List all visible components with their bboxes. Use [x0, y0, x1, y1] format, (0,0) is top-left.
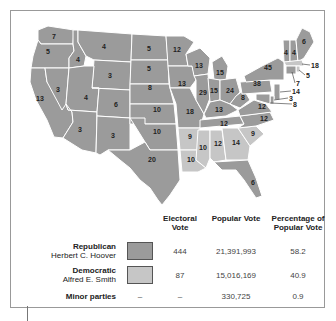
democratic-swatch [127, 266, 153, 284]
state-ev-label-me: 6 [302, 38, 306, 45]
state-ev-label-az: 3 [78, 126, 82, 133]
state-ev-label-ms: 10 [199, 144, 207, 151]
state-ev-label-nc: 12 [260, 115, 268, 122]
us-electoral-map: 7513344343635581010201213189101329151524… [0, 0, 336, 215]
minor-electoral-vote: – [158, 292, 202, 301]
state-ct [286, 66, 296, 74]
state-ev-label-wa: 7 [52, 33, 56, 40]
democratic-percentage: 40.9 [268, 271, 328, 280]
header-electoral-vote: Electoral Vote [158, 214, 202, 232]
state-ev-label-pa: 38 [253, 80, 261, 87]
state-ev-label-nj: 14 [292, 88, 300, 95]
minor-popular-vote: 330,725 [210, 292, 262, 301]
minor-swatch-placeholder: – [127, 292, 153, 301]
header-percentage-popular-vote: Percentage of Popular Vote [268, 214, 328, 232]
state-ev-label-ri: 5 [306, 72, 310, 79]
state-ev-label-nh: 4 [292, 49, 296, 56]
state-ev-label-sc: 9 [251, 130, 255, 137]
state-ev-label-mo: 18 [186, 108, 194, 115]
legend-democratic: Democratic Alfred E. Smith [63, 266, 116, 284]
state-nj [274, 84, 280, 100]
state-ev-label-nd: 5 [147, 45, 151, 52]
democratic-electoral-vote: 87 [158, 271, 202, 280]
state-ev-label-in: 15 [210, 87, 218, 94]
state-ev-label-vt: 4 [284, 49, 288, 56]
party-name: Republican [51, 242, 116, 251]
state-ev-label-ny: 45 [264, 64, 272, 71]
state-ev-label-mt: 4 [102, 43, 106, 50]
state-ev-label-ma: 18 [311, 62, 319, 69]
state-or [31, 40, 74, 68]
state-ev-label-al: 12 [214, 140, 222, 147]
state-ev-label-ca: 13 [36, 95, 44, 102]
state-wa [38, 26, 74, 44]
state-ev-label-md: 8 [293, 101, 297, 108]
state-ev-label-fl: 6 [251, 179, 255, 186]
state-ev-label-wy: 3 [108, 72, 112, 79]
leader-line-nj [280, 91, 291, 92]
state-ev-label-wi: 13 [195, 62, 203, 69]
party-name: Minor parties [66, 292, 116, 301]
state-ev-label-ar: 9 [188, 133, 192, 140]
state-ev-label-la: 10 [187, 156, 195, 163]
state-ev-label-ks: 10 [153, 106, 161, 113]
state-sd [130, 60, 169, 84]
state-ev-label-id: 4 [76, 56, 80, 63]
state-ev-label-ia: 13 [178, 80, 186, 87]
state-ev-label-or: 5 [46, 48, 50, 55]
democratic-popular-vote: 15,016,169 [210, 271, 262, 280]
state-ev-label-tn: 12 [220, 120, 228, 127]
state-ev-label-ok: 10 [153, 128, 161, 135]
state-ev-label-co: 6 [114, 101, 118, 108]
state-tx [108, 142, 180, 205]
state-ev-label-va: 12 [258, 103, 266, 110]
republican-popular-vote: 21,391,993 [210, 247, 262, 256]
state-ev-label-il: 29 [199, 89, 207, 96]
state-ev-label-ne: 8 [148, 84, 152, 91]
state-ev-label-ct: 7 [296, 80, 300, 87]
state-ev-label-mi: 15 [216, 69, 224, 76]
state-ev-label-wv: 8 [241, 94, 245, 101]
state-mi [212, 56, 228, 80]
results-table: Electoral Vote Popular Vote Percentage o… [10, 214, 323, 306]
state-ev-label-nm: 3 [111, 132, 115, 139]
state-ri [296, 66, 300, 72]
candidate-name: Alfred E. Smith [63, 275, 116, 284]
republican-percentage: 58.2 [268, 247, 328, 256]
legend-republican: Republican Herbert C. Hoover [51, 242, 116, 260]
candidate-name: Herbert C. Hoover [51, 251, 116, 260]
state-ev-label-nv: 3 [56, 86, 60, 93]
header-popular-vote: Popular Vote [210, 214, 262, 223]
state-me [296, 28, 314, 62]
state-ev-label-tx: 20 [148, 156, 156, 163]
state-ne [130, 84, 174, 104]
party-name: Democratic [63, 266, 116, 275]
frame-tick-mark [27, 306, 28, 321]
republican-swatch [127, 242, 153, 260]
state-ev-label-oh: 24 [226, 87, 234, 94]
minor-percentage: 0.9 [268, 292, 328, 301]
state-ev-label-ga: 14 [232, 139, 240, 146]
state-ev-label-ky: 13 [215, 106, 223, 113]
state-ev-label-ut: 4 [84, 94, 88, 101]
legend-minor-parties: Minor parties [66, 292, 116, 301]
state-ev-label-mn: 12 [173, 46, 181, 53]
republican-electoral-vote: 444 [158, 247, 202, 256]
state-ev-label-sd: 5 [147, 65, 151, 72]
